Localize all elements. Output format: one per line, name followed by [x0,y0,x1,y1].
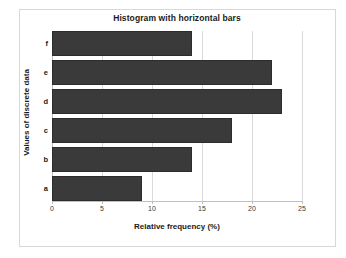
y-tick-label-c: c [30,118,48,143]
bar-a[interactable] [52,176,142,201]
x-axis-line [52,201,303,202]
y-tick-label-f: f [30,31,48,56]
x-tick-mark-25 [302,201,303,204]
x-axis-title: Relative frequency (%) [52,222,302,231]
figure-canvas: Histogram with horizontal bars Values of… [0,0,346,258]
plot-area [52,31,302,201]
bar-f[interactable] [52,31,192,56]
bar-row [52,118,302,143]
x-tick-label-0: 0 [40,205,64,212]
bar-series [52,31,302,201]
x-tick-mark-20 [252,201,253,204]
bar-row [52,89,302,114]
y-tick-label-d: d [30,89,48,114]
bar-e[interactable] [52,60,272,85]
x-tick-mark-0 [52,201,53,204]
y-tick-label-e: e [30,60,48,85]
x-tick-mark-5 [102,201,103,204]
bar-row [52,176,302,201]
y-tick-label-a: a [30,176,48,201]
y-axis-tick-labels: fedcba [30,31,48,201]
x-tick-label-5: 5 [90,205,114,212]
bar-row [52,31,302,56]
x-tick-label-10: 10 [140,205,164,212]
chart-title: Histogram with horizontal bars [52,13,302,23]
x-tick-mark-10 [152,201,153,204]
x-tick-label-15: 15 [190,205,214,212]
bar-row [52,147,302,172]
bar-d[interactable] [52,89,282,114]
bar-c[interactable] [52,118,232,143]
x-tick-label-20: 20 [240,205,264,212]
y-tick-label-b: b [30,147,48,172]
x-tick-label-25: 25 [290,205,314,212]
bar-row [52,60,302,85]
x-tick-mark-15 [202,201,203,204]
bar-b[interactable] [52,147,192,172]
gridline-25 [302,31,303,201]
